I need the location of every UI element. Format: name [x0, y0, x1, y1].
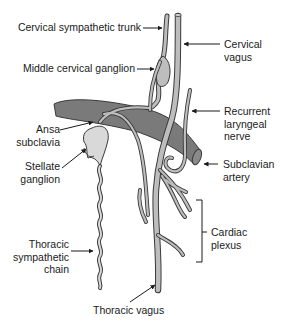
cardiac-plexus-bracket	[196, 200, 202, 262]
label-middle-cervical-ganglion: Middle cervical ganglion	[6, 62, 135, 75]
label-thoracic-vagus: Thoracic vagus	[93, 304, 164, 317]
label-cervical-sympathetic-trunk: Cervical sympathetic trunk	[6, 21, 141, 34]
stellate-ganglion	[83, 126, 108, 166]
label-thoracic-sympathetic-chain: Thoracic sympathetic chain	[2, 238, 69, 276]
label-cervical-vagus: Cervical vagus	[224, 38, 262, 63]
label-subclavian-artery: Subclavian artery	[223, 158, 274, 183]
thoracic-sympathetic-chain	[99, 166, 101, 288]
label-stellate-ganglion: Stellate ganglion	[2, 160, 60, 185]
label-recurrent-laryngeal-nerve: Recurrent laryngeal nerve	[224, 105, 270, 143]
label-cardiac-plexus: Cardiac plexus	[211, 226, 247, 251]
label-ansa-subclavia: Ansa subclavia	[2, 123, 60, 148]
